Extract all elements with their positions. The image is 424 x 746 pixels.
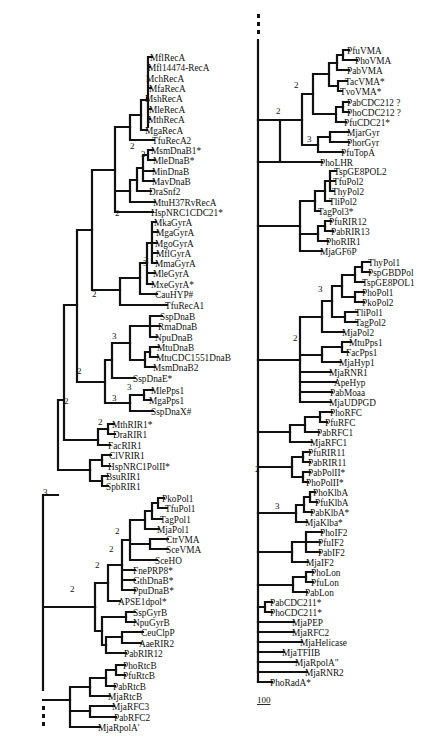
bootstrap-value: 3	[275, 501, 280, 511]
leaf-label: FnePRP8*	[133, 566, 173, 576]
leaf-label: MjaRpolA'	[98, 723, 140, 733]
leaf-label: PfuIF2	[318, 538, 344, 548]
leaf-label: MjaRNR1	[329, 368, 368, 378]
leaf-label: HspNRC1PolII*	[108, 462, 170, 472]
leaf-label: MtuCDC1551DnaB	[156, 353, 231, 363]
leaf-label: MjaUDPGD	[329, 398, 376, 408]
leaf-label: SspDnaE*	[133, 374, 173, 384]
leaf-label: SspDnaB	[160, 312, 195, 322]
leaf-label: PabRIR13	[331, 227, 370, 237]
leaf-label: TfuRecA2	[152, 136, 192, 146]
leaf-label: FacPps1	[346, 348, 378, 358]
leaf-label: PfuVMA	[347, 46, 382, 56]
leaf-label: ThyPol2	[332, 187, 364, 197]
leaf-label: PfuRIR11	[308, 448, 346, 458]
leaf-label: MjarGyr	[347, 128, 380, 138]
bootstrap-value: 2	[115, 526, 120, 536]
bootstrap-value: 2	[276, 106, 281, 116]
leaf-label: PhoRFC	[330, 408, 362, 418]
leaf-label: TvoVMA*	[340, 87, 382, 97]
leaf-label: AaeRIR2	[139, 639, 174, 649]
leaf-label: MkaGyrA	[154, 218, 192, 228]
leaf-label: MleGyrA	[153, 269, 189, 279]
leaf-label: MthRIR1*	[112, 420, 153, 430]
bootstrap-value: 2	[70, 584, 75, 594]
leaf-label: PfuLon	[311, 578, 339, 588]
leaf-label: PfuRFC	[325, 418, 356, 428]
leaf-label: PhoRadA*	[270, 678, 311, 688]
leaf-label: RmaDnaB	[158, 322, 197, 332]
leaf-label: TagPol2	[355, 318, 386, 328]
leaf-label: SceVMA	[166, 545, 201, 555]
leaf-label: MfaRecA	[149, 84, 186, 94]
bootstrap-value: 3	[127, 382, 132, 392]
leaf-label: PabCDC211*	[270, 598, 322, 608]
leaf-label: TspGE8POL1	[362, 278, 415, 288]
leaf-label: MjaGF6P	[320, 247, 357, 257]
leaf-label: MtuDnaB	[157, 343, 194, 353]
leaf-label: PabMoaa	[330, 388, 365, 398]
bootstrap-value: 2	[294, 80, 299, 90]
leaf-label: MshRecA	[145, 94, 183, 104]
leaf-label: Mfl14474-RecA	[148, 63, 210, 73]
leaf-label: MjaRNR2	[305, 668, 344, 678]
right-continuation-dots-icon	[257, 14, 260, 34]
leaf-label: MleRecA	[149, 105, 185, 115]
leaf-label: PhoKlbA	[313, 488, 348, 498]
leaf-label: MmaGyrA	[155, 259, 196, 269]
leaf-label: MjaRFC3	[112, 702, 150, 712]
bootstrap-value: 2	[115, 208, 120, 218]
leaf-label: MflGyrA	[156, 249, 191, 259]
leaf-label: MchRecA	[146, 74, 184, 84]
leaf-label: SceHO	[155, 556, 182, 566]
leaf-label: MjaRFC1	[310, 438, 348, 448]
leaf-label: MjaRpolA"	[295, 658, 339, 668]
leaf-label: MjaPol1	[157, 525, 189, 535]
bootstrap-value: 3	[307, 134, 312, 144]
leaf-label: PabRFC1	[317, 428, 354, 438]
left-tree-labels: MflRecAMfl14474-RecAMchRecAMfaRecAMshRec…	[98, 53, 231, 733]
leaf-label: PkoPol1	[162, 494, 194, 504]
leaf-label: PabRIR12	[124, 649, 163, 659]
leaf-label: PfuTopA	[341, 148, 375, 158]
leaf-label: MgaPps1	[149, 396, 184, 406]
leaf-label: APSE1dpol*	[118, 597, 167, 607]
leaf-label: MjaTFIIB	[282, 648, 320, 658]
leaf-label: MavDnaB	[152, 177, 191, 187]
leaf-label: PabRFC2	[114, 713, 151, 723]
leaf-label: MleDnaB*	[153, 156, 195, 166]
leaf-label: SpbRIR1	[106, 482, 141, 492]
leaf-label: PabRIR11	[308, 458, 347, 468]
leaf-label: PpuDnaB*	[133, 586, 174, 596]
leaf-label: MgaRecA	[145, 126, 183, 136]
leaf-label: PhoIF2	[320, 528, 348, 538]
leaf-label: MsmDnaB1*	[151, 146, 201, 156]
bootstrap-value: 3	[318, 284, 323, 294]
leaf-label: MjaRFC2	[292, 628, 330, 638]
leaf-label: ClVRIR1	[109, 451, 145, 461]
leaf-label: HspNRC1CDC21*	[151, 208, 223, 218]
leaf-label: SspGyrB	[133, 608, 167, 618]
leaf-label: ApeHyp	[334, 378, 366, 388]
leaf-label: MjaHelicase	[300, 638, 347, 648]
leaf-label: TagPol3*	[318, 207, 354, 217]
leaf-label: PabVMA	[347, 66, 383, 76]
leaf-label: SspDnaX#	[151, 407, 192, 417]
bootstrap-value: 3	[43, 487, 48, 497]
leaf-label: PabPolII*	[308, 468, 346, 478]
leaf-label: PhoRIR1	[326, 237, 361, 247]
leaf-label: PspGBDPol	[368, 268, 414, 278]
leaf-label: MgaGyrA	[156, 228, 194, 238]
leaf-label: MflRecA	[150, 53, 185, 63]
leaf-label: TspGE8POL2	[334, 167, 387, 177]
leaf-label: DraSnf2	[149, 187, 181, 197]
bootstrap-value: 3	[112, 331, 117, 341]
bootstrap-value: 2	[255, 464, 260, 474]
leaf-label: CauHYP#	[155, 290, 194, 300]
leaf-label: PkoPol2	[362, 298, 394, 308]
leaf-label: MjaPEP	[292, 618, 323, 628]
leaf-label: PhoCDC212 ?	[347, 108, 401, 118]
leaf-label: BsuRIR1	[106, 472, 141, 482]
leaf-label: NpuGyrB	[133, 618, 170, 628]
leaf-label: MsmDnaB2	[153, 363, 199, 373]
